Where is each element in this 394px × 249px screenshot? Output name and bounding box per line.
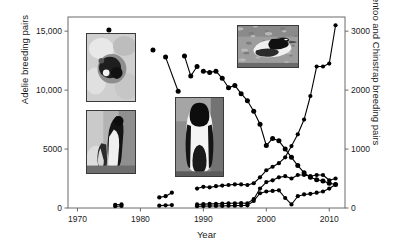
data-point: [283, 147, 288, 152]
adelie-chick-photo: [175, 97, 224, 177]
gentoo-photo: [237, 25, 299, 68]
data-point: [176, 89, 181, 94]
data-point: [264, 189, 268, 193]
data-point: [277, 188, 281, 192]
data-point: [277, 161, 281, 165]
data-point: [283, 196, 287, 200]
series-line: [197, 184, 336, 206]
data-point: [226, 204, 230, 208]
data-point: [208, 204, 212, 208]
data-point: [188, 73, 193, 78]
y-left-tick-label-15,000: 15,000: [36, 26, 62, 36]
data-point: [264, 180, 268, 184]
data-point: [321, 189, 325, 193]
data-point: [308, 94, 312, 98]
data-point: [201, 69, 206, 74]
data-point: [245, 203, 249, 207]
data-point: [157, 204, 161, 208]
data-point: [327, 61, 331, 65]
y-left-tick-label-0: 0: [57, 203, 62, 213]
data-point: [270, 136, 275, 141]
data-point: [276, 138, 281, 143]
x-tick-label-1970: 1970: [68, 214, 87, 224]
data-point: [220, 204, 224, 208]
data-point: [302, 117, 306, 121]
data-point: [315, 64, 319, 68]
data-point: [226, 183, 230, 187]
data-point: [289, 144, 293, 148]
data-point: [214, 184, 218, 188]
data-point: [201, 204, 205, 208]
data-point: [302, 173, 306, 177]
data-point: [239, 203, 243, 207]
y-axis-right-title: Gentoo and Chinstrap breeding pairs: [371, 0, 382, 130]
data-point: [277, 175, 281, 179]
data-point: [321, 173, 325, 177]
data-point: [207, 70, 212, 75]
data-point: [252, 199, 256, 203]
data-point: [264, 143, 269, 148]
data-point: [333, 176, 337, 180]
data-point: [214, 204, 218, 208]
data-point: [264, 168, 268, 172]
series-gentoo-breeding-pairs: [113, 23, 338, 207]
x-tick-label-1990: 1990: [194, 214, 213, 224]
data-point: [208, 185, 212, 189]
data-point: [245, 98, 250, 103]
data-point: [327, 178, 331, 182]
data-point: [245, 183, 249, 187]
data-point: [320, 178, 325, 183]
data-point: [308, 174, 312, 178]
data-point: [182, 53, 187, 58]
data-point: [150, 48, 155, 53]
data-point: [315, 173, 319, 177]
data-point: [170, 203, 174, 207]
data-point: [296, 173, 300, 177]
data-point: [232, 83, 237, 88]
data-point: [289, 202, 293, 206]
data-point: [296, 132, 300, 136]
data-point: [113, 204, 117, 208]
adelie-nest-photo: [86, 33, 136, 102]
data-point: [157, 195, 161, 199]
x-tick-label-2000: 2000: [257, 214, 276, 224]
series-chinstrap-breeding-pairs: [113, 173, 338, 208]
x-tick-label-1980: 1980: [131, 214, 150, 224]
data-point: [163, 203, 167, 207]
data-point: [170, 191, 174, 195]
data-point: [308, 192, 312, 196]
data-point: [327, 186, 331, 190]
x-tick-label-2010: 2010: [320, 214, 339, 224]
penguin-population-figure: 197019801990200020100500010,00015,000010…: [0, 0, 394, 249]
y-right-tick-label-0: 0: [351, 203, 356, 213]
data-point: [271, 165, 275, 169]
data-point: [333, 23, 337, 27]
y-right-tick-label-2000: 2000: [351, 85, 370, 95]
data-point: [271, 189, 275, 193]
chinstrap-pair-photo: [86, 110, 136, 174]
y-axis-left-title: Adelie breeding pairs: [19, 0, 30, 130]
data-point: [315, 191, 319, 195]
data-point: [195, 64, 200, 69]
data-point: [213, 69, 218, 74]
data-point: [258, 186, 262, 190]
y-right-tick-label-3000: 3000: [351, 26, 370, 36]
data-point: [271, 178, 275, 182]
series-line: [166, 57, 179, 91]
data-point: [233, 182, 237, 186]
data-point: [233, 204, 237, 208]
data-point: [295, 163, 300, 168]
data-point: [195, 186, 199, 190]
data-point: [252, 181, 256, 185]
data-point: [239, 91, 244, 96]
data-point: [201, 185, 205, 189]
data-point: [258, 122, 263, 127]
data-point: [333, 182, 337, 186]
data-point: [119, 204, 123, 208]
data-point: [321, 64, 325, 68]
data-point: [283, 155, 287, 159]
data-point: [220, 76, 225, 81]
data-point: [163, 55, 168, 60]
data-point: [251, 109, 256, 114]
data-point: [258, 175, 262, 179]
